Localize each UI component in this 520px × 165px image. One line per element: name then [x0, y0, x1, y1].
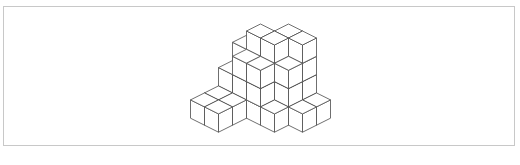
cube	[247, 56, 275, 88]
cube-stack-figure	[0, 0, 520, 165]
cube	[205, 100, 233, 132]
cube	[275, 56, 303, 88]
cube-stack	[191, 24, 331, 132]
cube	[289, 100, 317, 132]
cube	[261, 100, 289, 132]
